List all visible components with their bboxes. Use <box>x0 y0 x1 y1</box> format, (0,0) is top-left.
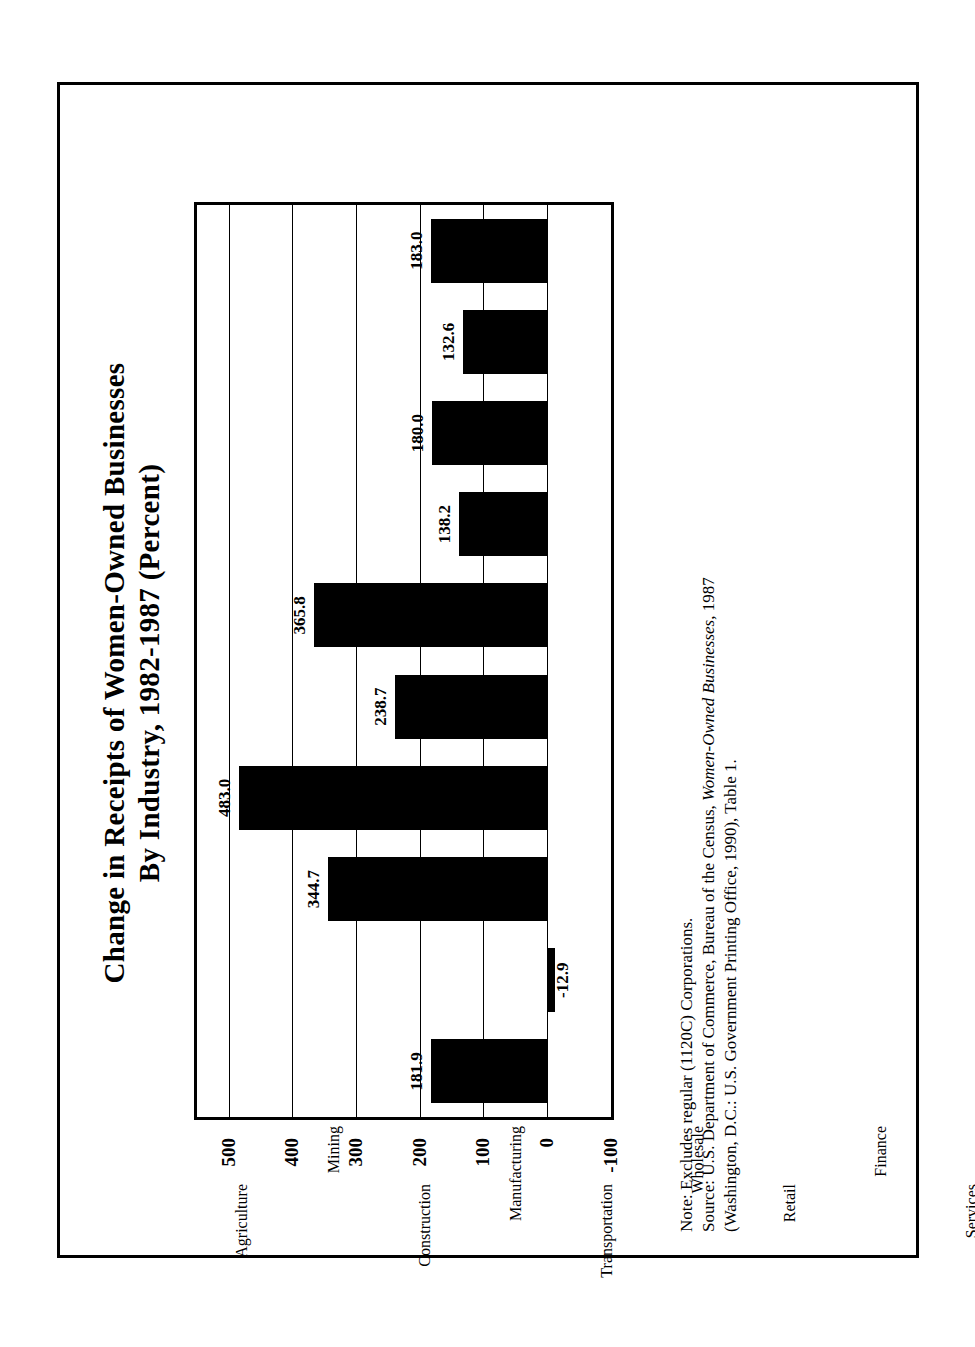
source-text-b: 1987 <box>699 577 718 615</box>
category-label: Finance <box>872 1126 890 1177</box>
source-title-italic: Women-Owned Businesses, <box>699 616 718 801</box>
category-label-line: Transportation <box>598 1184 615 1278</box>
source-line-2: (Washington, D.C.: U.S. Government Print… <box>720 142 742 1232</box>
category-label-line: Retail <box>781 1184 798 1222</box>
axis-tick-label: 400 <box>281 1138 303 1167</box>
axis-tick-label: -100 <box>600 1138 622 1173</box>
source-text-a: Source: U.S. Department of Commerce, Bur… <box>699 801 718 1232</box>
bar-value-label: -12.9 <box>554 962 571 997</box>
chart-title-line1: Change in Receipts of Women-Owned Busine… <box>98 363 130 984</box>
category-label: Services <box>963 1184 975 1238</box>
category-label: Mining <box>325 1126 343 1173</box>
category-label: Agriculture <box>234 1184 252 1258</box>
bar <box>239 766 547 830</box>
category-label-line: Services <box>963 1184 975 1238</box>
bar-value-label: 183.0 <box>408 231 425 269</box>
category-label-line: Construction <box>416 1184 433 1267</box>
page-border: Change in Receipts of Women-Owned Busine… <box>57 82 919 1258</box>
axis-tick-label: 500 <box>218 1138 240 1167</box>
gridline <box>292 205 293 1117</box>
bar-value-label: 483.0 <box>216 779 233 817</box>
bar <box>328 857 548 921</box>
category-label-line: Finance <box>872 1126 889 1177</box>
bar <box>431 219 548 283</box>
category-label-line: Mining <box>325 1126 342 1173</box>
note-line: Note: Excludes regular (1120C) Corporati… <box>676 142 698 1232</box>
category-label: Construction <box>416 1184 434 1267</box>
bar <box>459 492 547 556</box>
rotated-figure: Change in Receipts of Women-Owned Busine… <box>91 108 891 1238</box>
bar-value-label: 138.2 <box>436 505 453 543</box>
axis-tick-label: 200 <box>409 1138 431 1167</box>
gridline <box>420 205 421 1117</box>
axis-tick-label: 300 <box>345 1138 367 1167</box>
gridline <box>229 205 230 1117</box>
axis-tick-label: 0 <box>536 1138 558 1148</box>
gridline <box>356 205 357 1117</box>
source-line: Source: U.S. Department of Commerce, Bur… <box>698 142 720 1232</box>
bar-value-label: 132.6 <box>440 323 457 361</box>
bar <box>463 310 547 374</box>
category-label: Retail <box>781 1184 799 1222</box>
footnotes: Note: Excludes regular (1120C) Corporati… <box>676 142 742 1232</box>
bar <box>395 675 547 739</box>
value-axis-ticks: 5004003002001000-100 <box>618 202 648 1120</box>
bar-value-label: 238.7 <box>372 687 389 725</box>
chart-title: Change in Receipts of Women-Owned Busine… <box>97 108 168 1238</box>
bar-value-label: 181.9 <box>408 1052 425 1090</box>
bar-value-label: 344.7 <box>305 870 322 908</box>
gridline <box>611 205 612 1117</box>
chart-title-line2: By Industry, 1982-1987 (Percent) <box>132 108 167 1238</box>
bar-value-label: 365.8 <box>291 596 308 634</box>
category-label: Transportation <box>598 1184 616 1278</box>
bar-value-label: 180.0 <box>409 414 426 452</box>
chart-area: AgricultureMiningConstructionManufacturi… <box>194 108 664 1238</box>
bar <box>314 584 547 648</box>
category-label: Manufacturing <box>507 1126 525 1221</box>
category-label-line: Agriculture <box>234 1184 251 1258</box>
category-label-line: Manufacturing <box>507 1126 524 1221</box>
bar <box>432 401 547 465</box>
bar <box>431 1040 547 1104</box>
axis-tick-label: 100 <box>472 1138 494 1167</box>
plot-frame <box>194 202 614 1120</box>
